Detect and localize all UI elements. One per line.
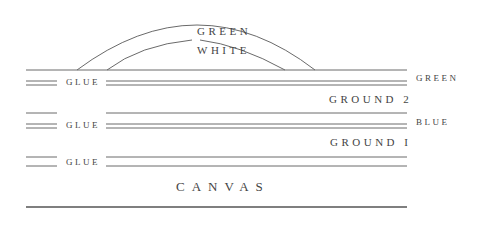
white-arc [107,40,192,70]
layer-label-glue-3: GLUE [66,157,100,167]
green-arc [77,25,315,70]
layer-label-glue-2: GLUE [66,120,100,130]
arc-label-white: WHITE [197,44,250,56]
arc-label-green: GREEN [197,25,251,37]
layer-label-ground-2: GROUND 2 [329,93,412,105]
layer-label-canvas: CANVAS [176,179,270,195]
layer-label-glue-1: GLUE [66,77,100,87]
side-label-blue: BLUE [416,117,450,127]
layer-label-ground-1: GROUND I [330,136,411,148]
side-label-green: GREEN [416,73,459,83]
